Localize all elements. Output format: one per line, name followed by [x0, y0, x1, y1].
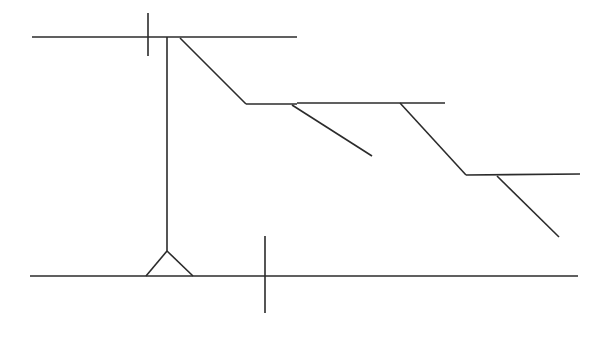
bench-3-line — [466, 174, 580, 175]
drawing-background — [0, 0, 601, 340]
technical-drawing-canvas — [0, 0, 601, 340]
drawing-root — [0, 0, 601, 340]
